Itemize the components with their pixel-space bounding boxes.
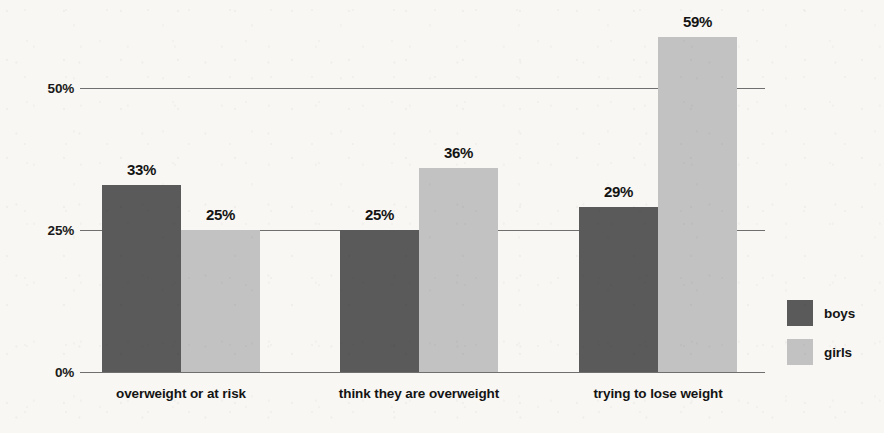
bar-boys-2[interactable]: 29% bbox=[579, 207, 658, 372]
bar-fill bbox=[579, 207, 658, 372]
bar-groups: 33%25%overweight or at risk25%36%think t… bbox=[102, 88, 765, 372]
bar-boys-0[interactable]: 33% bbox=[102, 185, 181, 372]
legend-swatch-girls bbox=[787, 339, 813, 365]
legend-item-boys[interactable]: boys bbox=[787, 300, 855, 326]
bar-fill bbox=[340, 230, 419, 372]
category-label: trying to lose weight bbox=[593, 386, 722, 401]
bar-girls-0[interactable]: 25% bbox=[181, 230, 260, 372]
bar-value-label: 25% bbox=[365, 206, 394, 223]
bar-fill bbox=[102, 185, 181, 372]
bar-girls-1[interactable]: 36% bbox=[419, 168, 498, 372]
bar-fill bbox=[419, 168, 498, 372]
tick-mark-50 bbox=[80, 88, 102, 89]
bar-group: 29%59%trying to lose weight bbox=[579, 88, 737, 372]
legend-label-girls: girls bbox=[824, 345, 852, 360]
bar-value-label: 29% bbox=[604, 183, 633, 200]
axis-line-x bbox=[102, 372, 765, 373]
y-tick-label-0: 0% bbox=[55, 365, 74, 380]
category-label: think they are overweight bbox=[339, 386, 499, 401]
legend-label-boys: boys bbox=[824, 306, 855, 321]
bar-fill bbox=[658, 37, 737, 372]
y-tick-label-25: 25% bbox=[48, 223, 74, 238]
tick-mark-0 bbox=[80, 372, 102, 373]
bar-girls-2[interactable]: 59% bbox=[658, 37, 737, 372]
tick-mark-25 bbox=[80, 230, 102, 231]
legend: boys girls bbox=[787, 300, 855, 378]
plot-area: 50% 25% 0% 33%25%overweight or at risk25… bbox=[102, 88, 765, 372]
bar-value-label: 25% bbox=[206, 206, 235, 223]
y-tick-label-50: 50% bbox=[48, 81, 74, 96]
bar-value-label: 36% bbox=[444, 144, 473, 161]
bar-group: 25%36%think they are overweight bbox=[340, 88, 498, 372]
legend-swatch-boys bbox=[787, 300, 813, 326]
legend-item-girls[interactable]: girls bbox=[787, 339, 855, 365]
bar-value-label: 33% bbox=[127, 161, 156, 178]
bar-fill bbox=[181, 230, 260, 372]
bar-group: 33%25%overweight or at risk bbox=[102, 88, 260, 372]
bar-boys-1[interactable]: 25% bbox=[340, 230, 419, 372]
bar-value-label: 59% bbox=[683, 13, 712, 30]
bar-chart: 50% 25% 0% 33%25%overweight or at risk25… bbox=[0, 0, 884, 433]
category-label: overweight or at risk bbox=[116, 386, 246, 401]
